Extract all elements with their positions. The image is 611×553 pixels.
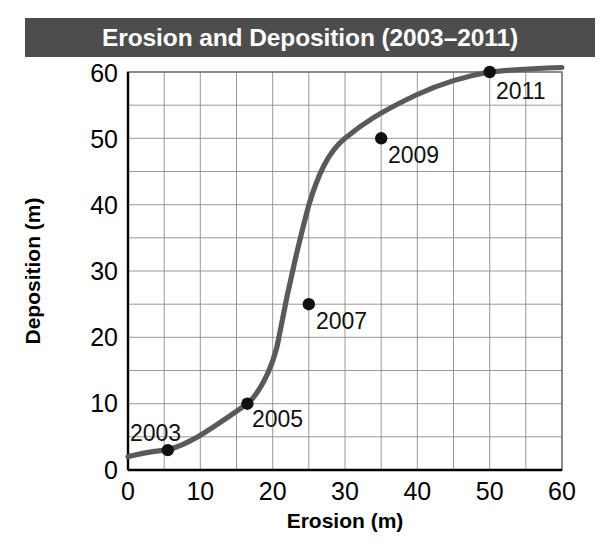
x-tick-50: 50 (476, 477, 504, 505)
y-axis-title: Deposition (m) (21, 198, 44, 345)
point-label-2009: 2009 (388, 142, 439, 168)
y-tick-60: 60 (90, 59, 118, 87)
y-tick-40: 40 (90, 191, 118, 219)
x-tick-0: 0 (121, 477, 135, 505)
y-tick-50: 50 (90, 125, 118, 153)
data-point-2007[interactable] (303, 298, 315, 310)
x-axis-title: Erosion (m) (287, 509, 404, 532)
chart-figure: Erosion and Deposition (2003–2011) (0, 0, 611, 553)
y-tick-0: 0 (104, 456, 118, 484)
point-label-2007: 2007 (316, 308, 367, 334)
y-tick-20: 20 (90, 323, 118, 351)
data-point-2009[interactable] (375, 132, 387, 144)
y-tick-labels: 0 10 20 30 40 50 60 (90, 59, 118, 484)
y-tick-10: 10 (90, 389, 118, 417)
chart-plot: 0 10 20 30 40 50 60 0 10 20 30 40 50 60 … (0, 0, 611, 553)
x-tick-60: 60 (548, 477, 576, 505)
data-point-labels: 2003 2005 2007 2009 2011 (130, 78, 545, 446)
x-tick-labels: 0 10 20 30 40 50 60 (121, 477, 576, 505)
x-tick-40: 40 (403, 477, 431, 505)
x-tick-30: 30 (331, 477, 359, 505)
data-point-markers (162, 66, 496, 457)
x-tick-20: 20 (259, 477, 287, 505)
point-label-2003: 2003 (130, 420, 181, 446)
grid-minor (128, 72, 562, 470)
x-tick-10: 10 (186, 477, 214, 505)
data-point-2011[interactable] (484, 66, 496, 78)
point-label-2005: 2005 (252, 406, 303, 432)
y-tick-30: 30 (90, 257, 118, 285)
point-label-2011: 2011 (496, 78, 545, 104)
